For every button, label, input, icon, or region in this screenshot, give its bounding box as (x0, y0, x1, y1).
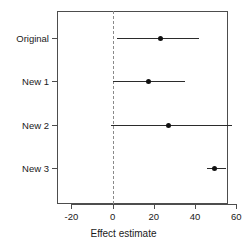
y-tick-original (52, 38, 57, 39)
x-tick-label-2: 20 (149, 211, 160, 222)
point-estimate-new-2 (166, 123, 171, 128)
x-tick-label-4: 60 (231, 211, 242, 222)
x-axis-title: Effect estimate (0, 228, 247, 239)
x-tick-1 (113, 204, 114, 209)
x-tick-label-1: 0 (110, 211, 115, 222)
plot-area: Original New 1 New 2 New 3 (57, 11, 228, 204)
x-tick-3 (195, 204, 196, 209)
point-estimate-new-1 (146, 79, 151, 84)
y-tick-new-1 (52, 81, 57, 82)
x-tick-4 (236, 204, 237, 209)
y-label-new-1: New 1 (22, 76, 49, 87)
point-estimate-original (158, 36, 163, 41)
zero-reference-line (113, 11, 114, 204)
y-label-new-2: New 2 (22, 119, 49, 130)
y-label-original: Original (16, 32, 49, 43)
confidence-interval-new-2 (111, 125, 233, 126)
y-tick-new-2 (52, 125, 57, 126)
forest-plot-figure: Original New 1 New 2 New 3 -20 0 (0, 0, 247, 249)
x-tick-0 (71, 204, 72, 209)
y-label-new-3: New 3 (22, 163, 49, 174)
x-tick-label-0: -20 (65, 211, 79, 222)
x-tick-label-3: 40 (190, 211, 201, 222)
confidence-interval-new-3 (207, 168, 226, 169)
y-tick-new-3 (52, 168, 57, 169)
x-tick-2 (154, 204, 155, 209)
point-estimate-new-3 (212, 166, 217, 171)
